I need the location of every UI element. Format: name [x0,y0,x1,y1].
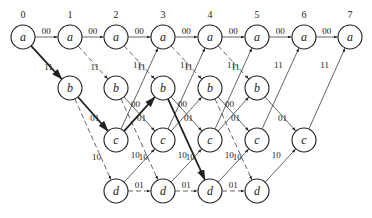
state-label: b [160,81,166,95]
edge-label: 01 [278,113,287,123]
edge-label: 11 [133,60,142,70]
edge-label: 01 [229,180,238,190]
state-node-a-t5: a [245,25,269,49]
time-label-3: 3 [161,9,166,20]
state-node-d-t4: d [198,179,222,203]
edge-label: 00 [322,26,332,36]
state-node-b-t2: b [104,76,128,100]
edge-label: 00 [131,99,141,109]
state-node-b-t4: b [198,76,222,100]
edge-label: 01 [184,113,193,123]
edge-label: 10 [139,152,149,162]
state-node-b-t3: b [151,76,175,100]
state-node-a-t4: a [198,25,222,49]
state-label: a [207,30,213,44]
state-label: d [160,184,167,198]
state-node-d-t5: d [245,179,269,203]
state-label: b [67,81,73,95]
state-label: c [113,133,119,147]
state-label: d [113,184,120,198]
edge-label: 01 [182,180,191,190]
state-label: b [207,81,213,95]
edge-label: 11 [180,60,189,70]
edge-label: 00 [88,26,98,36]
time-step-labels: 01234567 [21,9,353,20]
state-label: c [301,133,307,147]
state-label: a [20,30,26,44]
edge-label: 00 [182,26,192,36]
state-label: a [301,30,307,44]
time-label-4: 4 [208,9,213,20]
state-node-a-t3: a [151,25,175,49]
edge-label: 00 [135,26,145,36]
state-label: b [254,81,260,95]
state-node-b-t5: b [245,76,269,100]
edge-label: 00 [178,99,188,109]
edge-label: 10 [233,152,243,162]
state-node-d-t2: d [104,179,128,203]
state-label: d [254,184,261,198]
edge-label: 11 [44,62,53,72]
state-node-c-t3: c [151,128,175,152]
state-node-a-t0: a [11,25,35,49]
time-label-2: 2 [114,9,119,20]
state-label: c [207,133,213,147]
trellis-diagram: 01234567 0011001101100011011011001001001… [0,0,372,218]
state-node-a-t6: a [292,25,316,49]
edge-label: 01 [135,180,144,190]
state-node-c-t6: c [292,128,316,152]
edge-label: 10 [178,150,188,160]
state-label: b [113,81,119,95]
state-label: c [254,133,260,147]
edge-label: 00 [225,99,235,109]
time-label-1: 1 [68,9,73,20]
edge-label: 01 [231,113,240,123]
state-label: a [347,30,353,44]
edge-label: 11 [90,62,99,72]
state-node-a-t7: a [338,25,362,49]
state-node-c-t2: c [104,128,128,152]
edge-label: 10 [131,150,141,160]
edge-label: 00 [42,26,52,36]
time-label-7: 7 [348,9,353,20]
state-label: d [207,184,214,198]
state-label: a [113,30,119,44]
state-label: a [254,30,260,44]
edge-label: 00 [276,26,286,36]
state-node-a-t2: a [104,25,128,49]
edge-label: 11 [274,60,283,70]
state-node-d-t3: d [151,179,175,203]
edge-label: 00 [229,26,239,36]
edge-label: 11 [227,60,236,70]
state-node-b-t1: b [58,76,82,100]
time-label-6: 6 [302,9,307,20]
edge-label: 10 [225,150,235,160]
edge-label: 10 [272,150,282,160]
edge-label: 10 [92,152,102,162]
state-node-c-t4: c [198,128,222,152]
edge-label: 01 [90,113,99,123]
state-node-a-t1: a [58,25,82,49]
state-label: a [67,30,73,44]
state-label: a [160,30,166,44]
edge-label: 10 [186,152,196,162]
state-label: c [160,133,166,147]
edge-label: 11 [320,60,329,70]
edge-label: 01 [137,113,146,123]
time-label-5: 5 [255,9,260,20]
state-node-c-t5: c [245,128,269,152]
time-label-0: 0 [21,9,26,20]
